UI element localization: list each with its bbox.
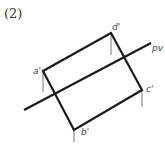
projection-diagram: d' a' c' b' pv <box>0 0 165 161</box>
label-d: d' <box>112 22 120 32</box>
label-pv: pv <box>151 43 164 53</box>
label-b: b' <box>81 127 89 137</box>
rectangle-abcd <box>43 33 142 130</box>
label-a: a' <box>33 66 41 76</box>
label-c: c' <box>146 84 153 94</box>
